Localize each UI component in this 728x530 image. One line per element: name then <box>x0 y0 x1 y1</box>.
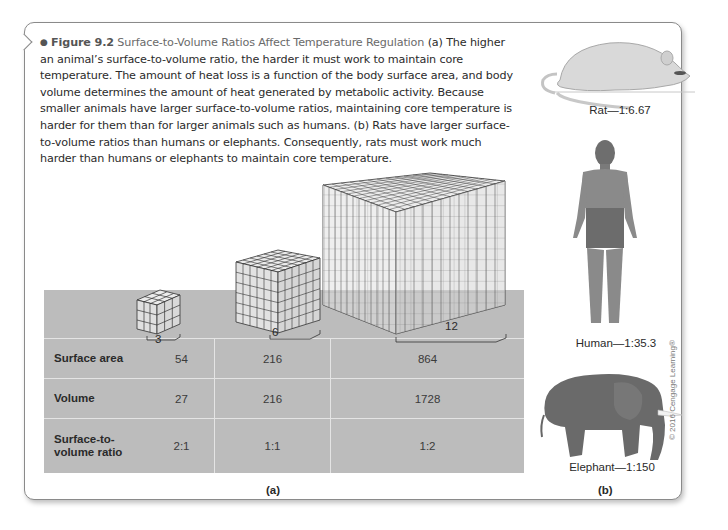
panel-b-label: (b) <box>598 484 613 496</box>
cell-medium: 216 <box>214 379 330 418</box>
rat-ratio-label: Rat—1:6.67 <box>560 104 680 116</box>
row-label-line2: volume ratio <box>54 446 149 459</box>
cell-large: 1:2 <box>330 419 524 473</box>
cube-3-dimension: 3 <box>155 333 161 345</box>
figure-caption: ● Figure 9.2 Surface-to-Volume Ratios Af… <box>40 34 518 168</box>
panel-a-label: (a) <box>266 484 280 496</box>
data-table: Surface area 54 216 864 Volume 27 216 17… <box>44 290 524 473</box>
caption-body: (a) The higher an animal’s surface-to-vo… <box>40 36 513 165</box>
row-label-line1: Surface-to- <box>54 433 149 446</box>
figure-title: Surface-to-Volume Ratios Affect Temperat… <box>117 36 424 49</box>
row-label: Volume <box>44 392 149 405</box>
cell-medium: 1:1 <box>214 419 330 473</box>
table-row: Surface area 54 216 864 <box>44 338 524 378</box>
table-row: Volume 27 216 1728 <box>44 378 524 418</box>
elephant-ratio-label: Elephant—1:150 <box>552 461 672 473</box>
table-row: Surface-to- volume ratio 2:1 1:1 1:2 <box>44 418 524 473</box>
cell-large: 1728 <box>330 379 524 418</box>
cell-small: 2:1 <box>149 419 214 473</box>
cube-6-dimension: 6 <box>272 326 278 338</box>
cube-12-dimension: 12 <box>445 320 458 332</box>
cell-large: 864 <box>330 339 524 378</box>
copyright-notice: © 2016 Cengage Learning® <box>668 340 677 440</box>
human-ratio-label: Human—1:35.3 <box>556 337 676 349</box>
cell-small: 27 <box>149 379 214 418</box>
cell-medium: 216 <box>214 339 330 378</box>
bullet-icon: ● <box>40 37 48 47</box>
row-label: Surface area <box>44 352 149 365</box>
row-label: Surface-to- volume ratio <box>44 433 149 459</box>
figure-number: Figure 9.2 <box>51 36 114 49</box>
